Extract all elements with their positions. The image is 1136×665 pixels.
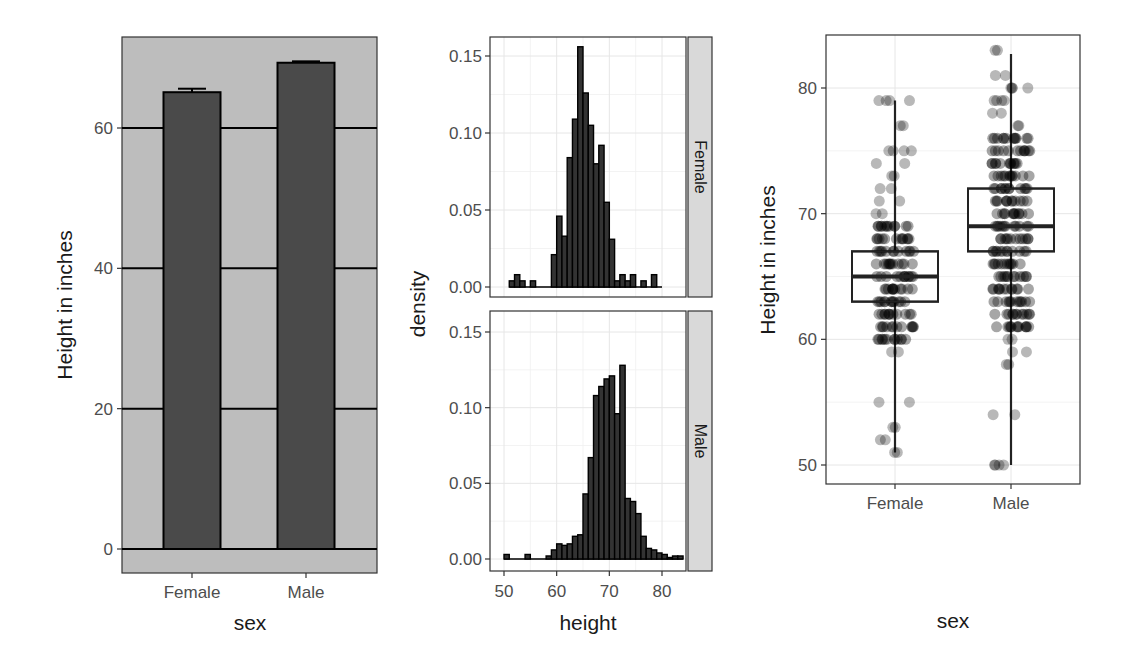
histogram-bin <box>551 255 556 287</box>
histogram-bin <box>630 275 635 287</box>
histogram-bin <box>599 386 604 559</box>
histogram-bin <box>594 396 599 559</box>
y-tick-label: 60 <box>798 330 817 349</box>
jitter-point <box>872 334 883 345</box>
histogram-bin <box>667 557 672 559</box>
histogram-bin <box>594 164 599 287</box>
jitter-point <box>887 258 898 269</box>
histogram-bin <box>578 47 583 287</box>
jitter-point <box>884 95 895 106</box>
y-tick-label: 0.00 <box>449 278 482 297</box>
bar-female <box>164 92 221 549</box>
jitter-point <box>996 95 1007 106</box>
jitter-point <box>879 284 890 295</box>
jitter-point <box>906 145 917 156</box>
y-tick-label: 50 <box>798 456 817 475</box>
histogram-bin <box>599 145 604 287</box>
jitter-point <box>902 233 913 244</box>
jitter-point <box>1006 170 1017 181</box>
jitter-point <box>1008 258 1019 269</box>
histogram-bin <box>662 554 667 559</box>
jitter-point <box>1013 321 1024 332</box>
jitter-point <box>1011 284 1022 295</box>
jitter-point <box>896 321 907 332</box>
jitter-point <box>875 183 886 194</box>
histogram-bin <box>572 536 577 559</box>
jitter-point <box>886 170 897 181</box>
jitter-point <box>892 447 903 458</box>
jitter-point <box>889 334 900 345</box>
histogram-bin <box>620 365 625 559</box>
jitter-point <box>877 321 888 332</box>
jitter-point <box>907 258 918 269</box>
histogram-bin <box>567 158 572 287</box>
jitter-point <box>904 309 915 320</box>
y-tick-label: 0.10 <box>449 124 482 143</box>
jitter-point <box>891 233 902 244</box>
histogram-bin <box>651 275 656 287</box>
x-tick-label: 50 <box>495 582 514 601</box>
histogram-bin <box>625 498 630 559</box>
x-tick-label: Male <box>993 494 1030 513</box>
y-tick-label: 0.05 <box>449 474 482 493</box>
y-tick-label: 80 <box>798 79 817 98</box>
jitter-point <box>1008 208 1019 219</box>
histogram-bin <box>530 281 535 287</box>
x-tick-label: Female <box>164 583 221 602</box>
histogram-bin <box>520 281 525 287</box>
jitter-point <box>992 45 1003 56</box>
jitter-point <box>993 284 1004 295</box>
jitter-point <box>990 158 1001 169</box>
facet-strip-label: Male <box>692 424 709 459</box>
jitter-point <box>1023 208 1034 219</box>
histogram-bin <box>609 239 614 287</box>
boxplot-panel: 50607080FemaleMalesexHeight in inches <box>756 35 1080 632</box>
jitter-point <box>1022 196 1033 207</box>
jitter-point <box>1001 196 1012 207</box>
histogram-bin <box>588 458 593 559</box>
jitter-point <box>1017 233 1028 244</box>
histogram-bin <box>546 556 551 559</box>
x-tick-label: 60 <box>547 582 566 601</box>
jitter-point <box>890 422 901 433</box>
jitter-point <box>1009 409 1020 420</box>
histogram-bin <box>509 281 514 287</box>
x-axis-title: sex <box>937 609 970 632</box>
jitter-point <box>1001 359 1012 370</box>
jitter-point <box>1007 346 1018 357</box>
jitter-point <box>895 120 906 131</box>
jitter-point <box>989 309 1000 320</box>
histogram-bin <box>572 119 577 287</box>
jitter-point <box>894 196 905 207</box>
jitter-point <box>987 145 998 156</box>
y-axis-title: density <box>406 270 429 337</box>
jitter-point <box>1015 145 1026 156</box>
histogram-bin <box>525 554 530 559</box>
jitter-point <box>873 95 884 106</box>
jitter-point <box>1000 70 1011 81</box>
histogram-bin <box>562 545 567 559</box>
x-axis-title: height <box>559 611 616 634</box>
histogram-bin <box>504 554 509 559</box>
histogram-bin <box>620 275 625 287</box>
x-axis-title: sex <box>234 611 267 634</box>
histogram-bin <box>625 281 630 287</box>
y-axis-title: Height in inches <box>756 185 779 334</box>
jitter-point <box>990 70 1001 81</box>
histogram-bin <box>557 544 562 559</box>
jitter-point <box>886 183 897 194</box>
y-tick-label: 0.15 <box>449 47 482 66</box>
jitter-point <box>880 309 891 320</box>
histogram-bin <box>678 556 683 559</box>
histogram-bin <box>673 556 678 559</box>
jitter-point <box>874 196 885 207</box>
histogram-bin <box>636 514 641 559</box>
jitter-point <box>883 145 894 156</box>
histogram-bin <box>551 550 556 559</box>
histogram-bin <box>583 494 588 559</box>
chart-figure: 0204060FemaleMalesexHeight in inches 0.0… <box>0 0 1136 665</box>
jitter-point <box>871 208 882 219</box>
histogram-bin <box>641 536 646 559</box>
panel-background <box>122 37 377 573</box>
jitter-point <box>904 95 915 106</box>
